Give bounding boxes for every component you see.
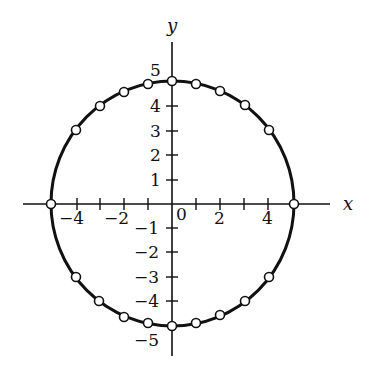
y-tick-label: −3 (134, 267, 159, 287)
y-tick-label: −2 (134, 242, 159, 262)
y-tick-label: 3 (150, 121, 161, 141)
y-tick-label: 5 (150, 60, 161, 80)
x-axis-label: x (343, 193, 353, 214)
y-tick-label: −1 (134, 218, 159, 238)
chart-canvas: y x −4 −2 0 2 4 5 4 3 2 1 −1 −2 −3 −4 −5 (0, 0, 376, 373)
x-tick-label: −4 (59, 208, 84, 228)
y-tick-label: −4 (134, 291, 159, 311)
x-tick-label: 0 (176, 204, 187, 224)
x-tick-label: −2 (104, 208, 129, 228)
y-tick-label: 1 (150, 170, 161, 190)
y-axis-label: y (166, 15, 178, 36)
y-tick-label: −5 (134, 330, 159, 350)
y-tick-label: 4 (150, 96, 161, 116)
x-tick-label: 2 (214, 208, 225, 228)
y-tick-label: 2 (150, 145, 161, 165)
x-tick-label: 4 (262, 208, 273, 228)
